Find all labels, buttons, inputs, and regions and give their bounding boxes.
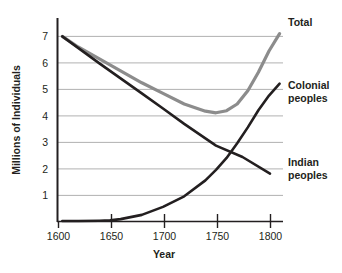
series-label-colonial-line1: Colonial	[288, 79, 329, 91]
series-label-indian-line2: peoples	[288, 169, 328, 181]
y-axis-title: Millions of Individuals	[10, 65, 22, 175]
x-tick-label-1600: 1600	[47, 230, 71, 242]
line-chart: 7 6 5 4 3 2 1 1600 1650 1700 1750 1800 Y…	[0, 0, 342, 273]
chart-figure: 7 6 5 4 3 2 1 1600 1650 1700 1750 1800 Y…	[0, 0, 342, 273]
series-line-total	[62, 34, 279, 113]
x-tick-label-1750: 1750	[206, 230, 230, 242]
x-tick-label-1800: 1800	[259, 230, 283, 242]
x-axis-title: Year	[153, 248, 175, 260]
x-tick-label-1700: 1700	[153, 230, 177, 242]
series-line-colonial-peoples	[62, 84, 279, 221]
x-tick-label-1650: 1650	[100, 230, 124, 242]
y-tick-label-6: 6	[42, 57, 48, 69]
series-label-colonial-line2: peoples	[288, 92, 328, 104]
y-tick-label-7: 7	[42, 30, 48, 42]
y-tick-label-4: 4	[42, 110, 48, 122]
y-tick-label-1: 1	[42, 189, 48, 201]
y-tick-label-2: 2	[42, 163, 48, 175]
y-tick-label-5: 5	[42, 83, 48, 95]
series-label-indian-line1: Indian	[288, 156, 319, 168]
gridlines	[57, 36, 283, 195]
series-label-total: Total	[288, 16, 312, 28]
y-tick-label-3: 3	[42, 136, 48, 148]
